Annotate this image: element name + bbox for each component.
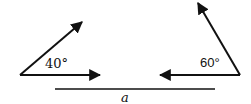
vector-diagram: 40° 60° a <box>0 0 251 104</box>
right-vector-pair: 60° <box>160 3 240 75</box>
left-angle-label: 40° <box>45 56 68 71</box>
right-angle-label: 60° <box>200 55 220 70</box>
left-vector-pair: 40° <box>20 22 100 75</box>
baseline-label: a <box>121 90 129 104</box>
